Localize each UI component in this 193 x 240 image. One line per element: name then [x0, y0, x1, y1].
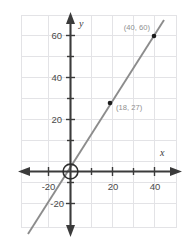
data-point-dot: [152, 34, 157, 39]
data-point-40-60: (40, 60): [124, 23, 156, 38]
y-axis-label: y: [78, 18, 84, 29]
y-axis: [66, 12, 75, 237]
data-point-label: (40, 60): [124, 23, 151, 32]
y-tick-label-minus-20: -20: [50, 198, 64, 209]
coordinate-graph-figure: 60 40 20 -20 -20 20 40 y x (18, 27) (40,…: [0, 0, 193, 240]
y-tick-label-20: 20: [51, 114, 62, 125]
x-axis: [18, 167, 182, 176]
y-axis-arrow-down: [66, 225, 75, 237]
x-tick-label-minus-20: -20: [42, 181, 56, 192]
x-axis-arrow-left: [18, 167, 30, 176]
plot-area: 60 40 20 -20 -20 20 40 y x (18, 27) (40,…: [0, 0, 193, 240]
x-tick-label-40: 40: [150, 181, 161, 192]
y-axis-arrow-up: [66, 12, 75, 24]
x-axis-label: x: [159, 147, 165, 158]
data-point-dot: [108, 101, 113, 106]
data-point-label: (18, 27): [116, 103, 143, 112]
y-tick-label-60: 60: [51, 30, 62, 41]
x-tick-label-20: 20: [108, 181, 119, 192]
y-tick-label-40: 40: [51, 72, 62, 83]
